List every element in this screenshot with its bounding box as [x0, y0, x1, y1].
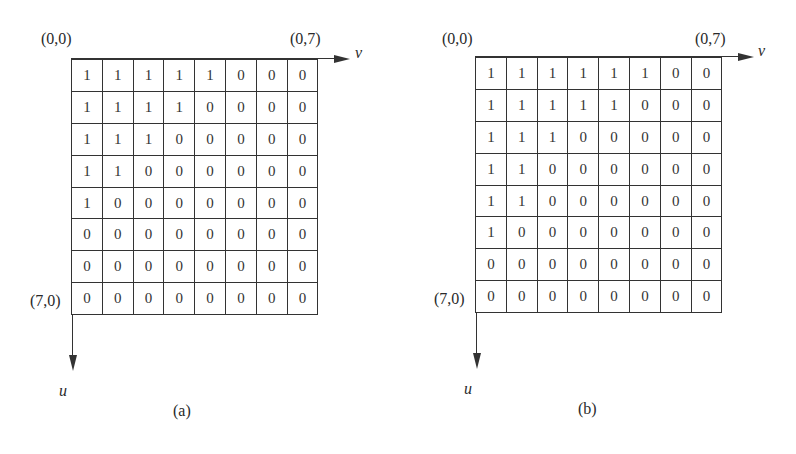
- u-axis-label: u: [464, 380, 472, 398]
- matrix-grid: 1111110011111000111000001100000011000000…: [475, 57, 722, 313]
- matrix-cell: 0: [72, 219, 103, 251]
- matrix-cell: 0: [288, 92, 319, 124]
- matrix-cell: 0: [103, 188, 134, 220]
- matrix-cell: 0: [226, 283, 257, 315]
- matrix-cell: 0: [630, 217, 661, 249]
- matrix-cell: 0: [72, 251, 103, 283]
- matrix-cell: 1: [72, 60, 103, 92]
- matrix-cell: 0: [226, 92, 257, 124]
- matrix-cell: 1: [72, 188, 103, 220]
- matrix-cell: 0: [134, 188, 165, 220]
- matrix-cell: 0: [164, 283, 195, 315]
- matrix-cell: 0: [164, 219, 195, 251]
- matrix-cell: 0: [164, 124, 195, 156]
- matrix-cell: 0: [288, 60, 319, 92]
- matrix-cell: 0: [476, 281, 507, 313]
- matrix-cell: 0: [661, 249, 692, 281]
- matrix-cell: 0: [692, 58, 723, 90]
- matrix-cell: 1: [476, 122, 507, 154]
- matrix-cell: 1: [476, 186, 507, 218]
- matrix-cell: 1: [476, 90, 507, 122]
- matrix-cell: 1: [134, 92, 165, 124]
- matrix-cell: 0: [257, 188, 288, 220]
- matrix-cell: 0: [288, 219, 319, 251]
- matrix-cell: 1: [599, 58, 630, 90]
- matrix-cell: 0: [692, 217, 723, 249]
- matrix-cell: 0: [538, 186, 569, 218]
- matrix-cell: 0: [288, 251, 319, 283]
- matrix-cell: 1: [507, 186, 538, 218]
- matrix-cell: 1: [134, 124, 165, 156]
- matrix-cell: 0: [134, 283, 165, 315]
- matrix-cell: 0: [226, 124, 257, 156]
- matrix-cell: 0: [226, 219, 257, 251]
- panel-b: (0,0) (0,7) v 11111100111110001110000011…: [398, 0, 796, 454]
- matrix-cell: 0: [195, 283, 226, 315]
- matrix-cell: 0: [661, 186, 692, 218]
- matrix-cell: 1: [507, 122, 538, 154]
- matrix-cell: 0: [257, 156, 288, 188]
- matrix-cell: 0: [630, 90, 661, 122]
- matrix-cell: 0: [599, 122, 630, 154]
- matrix-cell: 1: [476, 154, 507, 186]
- matrix-cell: 1: [103, 60, 134, 92]
- matrix-cell: 0: [661, 217, 692, 249]
- matrix-cell: 0: [257, 219, 288, 251]
- matrix-cell: 0: [568, 122, 599, 154]
- top-right-label: (0,7): [290, 30, 321, 48]
- matrix-cell: 0: [599, 281, 630, 313]
- u-axis-arrow-icon: [69, 355, 77, 371]
- matrix-cell: 0: [195, 188, 226, 220]
- matrix-cell: 1: [476, 217, 507, 249]
- panel-a: (0,0) (0,7) v 11111000111100001110000011…: [0, 0, 398, 454]
- matrix-cell: 0: [288, 156, 319, 188]
- matrix-cell: 0: [630, 154, 661, 186]
- matrix-cell: 0: [288, 188, 319, 220]
- matrix-cell: 0: [630, 122, 661, 154]
- matrix-cell: 0: [195, 219, 226, 251]
- u-axis-label: u: [59, 382, 67, 400]
- matrix-cell: 0: [630, 186, 661, 218]
- matrix-cell: 1: [164, 60, 195, 92]
- matrix-cell: 0: [476, 249, 507, 281]
- matrix-cell: 0: [599, 217, 630, 249]
- matrix-cell: 0: [226, 251, 257, 283]
- matrix-cell: 1: [538, 122, 569, 154]
- matrix-cell: 1: [538, 90, 569, 122]
- matrix-cell: 1: [630, 58, 661, 90]
- matrix-cell: 0: [692, 154, 723, 186]
- caption: (b): [578, 400, 597, 418]
- v-axis-label: v: [758, 42, 765, 60]
- matrix-cell: 0: [630, 281, 661, 313]
- matrix-cell: 0: [692, 186, 723, 218]
- matrix-cell: 0: [164, 188, 195, 220]
- u-axis-arrow-icon: [473, 353, 481, 369]
- matrix-cell: 0: [599, 249, 630, 281]
- matrix-cell: 0: [507, 217, 538, 249]
- matrix-cell: 1: [507, 154, 538, 186]
- matrix-cell: 0: [288, 124, 319, 156]
- origin-label: (0,0): [41, 30, 72, 48]
- matrix-cell: 0: [164, 156, 195, 188]
- matrix-cell: 0: [257, 283, 288, 315]
- matrix-cell: 1: [72, 156, 103, 188]
- matrix-cell: 0: [103, 219, 134, 251]
- matrix-cell: 0: [195, 156, 226, 188]
- matrix-cell: 0: [164, 251, 195, 283]
- matrix-cell: 0: [257, 60, 288, 92]
- matrix-cell: 1: [507, 90, 538, 122]
- origin-label: (0,0): [442, 30, 473, 48]
- matrix-cell: 0: [195, 124, 226, 156]
- caption: (a): [173, 402, 191, 420]
- matrix-cell: 1: [164, 92, 195, 124]
- matrix-cell: 1: [568, 58, 599, 90]
- matrix-cell: 0: [507, 281, 538, 313]
- matrix-cell: 0: [661, 281, 692, 313]
- matrix-cell: 0: [599, 186, 630, 218]
- matrix-cell: 1: [103, 92, 134, 124]
- bottom-left-label: (7,0): [434, 290, 465, 308]
- matrix-cell: 0: [257, 251, 288, 283]
- matrix-cell: 1: [103, 124, 134, 156]
- matrix-cell: 0: [538, 154, 569, 186]
- matrix-cell: 0: [568, 249, 599, 281]
